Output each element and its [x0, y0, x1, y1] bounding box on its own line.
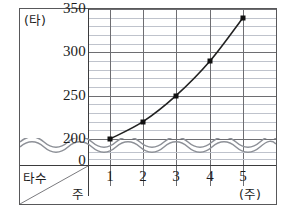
y-axis-unit-label: (타) — [24, 10, 46, 29]
data-series-line — [88, 9, 276, 139]
y-tick-label-300: 300 — [30, 43, 86, 60]
x-tick-label-5: 5 — [230, 168, 256, 185]
x-axis-unit-label: (주) — [239, 184, 261, 203]
series-path — [88, 9, 276, 139]
y-tick-label-200: 200 — [30, 130, 86, 147]
corner-col-label: 주 — [72, 184, 84, 203]
data-point-3 — [174, 93, 179, 98]
corner-row-label: 타수 — [23, 168, 47, 187]
line-path — [110, 18, 243, 139]
data-point-4 — [208, 59, 213, 64]
corner-header-cell: 타수 주 — [20, 166, 88, 204]
x-tick-label-2: 2 — [130, 168, 156, 185]
x-tick-label-4: 4 — [197, 168, 223, 185]
x-tick-label-1: 1 — [97, 168, 123, 185]
data-point-5 — [241, 15, 246, 20]
data-point-2 — [141, 119, 146, 124]
gridline-zero-zone — [88, 159, 276, 160]
x-tick-label-3: 3 — [163, 168, 189, 185]
y-tick-label-250: 250 — [30, 87, 86, 104]
gridline-zero-zone — [88, 152, 276, 153]
chart-figure: 3503002502000 12345 (타) (주) 타수 주 — [0, 0, 292, 220]
gridline-major-h — [88, 139, 276, 140]
data-point-1 — [108, 137, 113, 142]
zero-zone — [88, 152, 276, 165]
